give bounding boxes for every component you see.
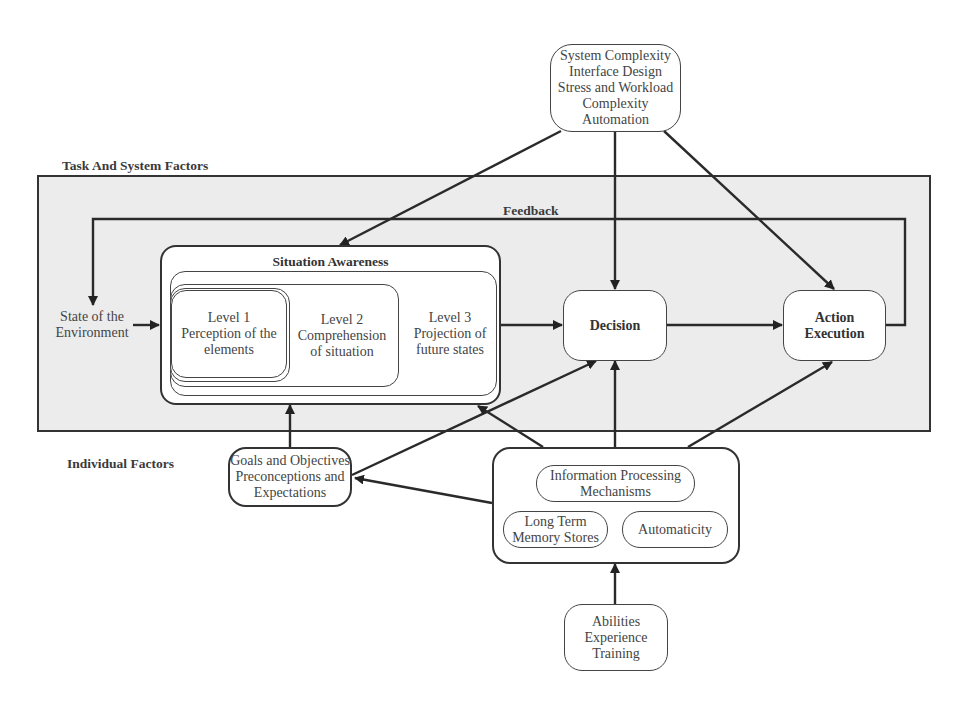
action-execution-node: Action Execution — [783, 290, 886, 361]
sa-level-2-line-1: Level 2 — [294, 312, 390, 328]
clipped-caption-strip — [0, 702, 965, 709]
goals-line-2: Preconceptions and — [235, 469, 344, 485]
sa-level-3-text: Level 3 Projection of future states — [412, 310, 488, 358]
automaticity-label: Automaticity — [638, 522, 712, 538]
state-of-environment-node: State of the Environment — [50, 309, 134, 341]
decision-label: Decision — [590, 318, 641, 334]
sa-level-1-line-1: Level 1 — [208, 310, 250, 326]
long-term-memory-node: Long Term Memory Stores — [503, 511, 608, 548]
abilities-line-3: Training — [592, 646, 640, 662]
state-line-1: State of the — [50, 309, 134, 325]
task-factors-line-1: System Complexity — [560, 48, 671, 64]
abilities-node: Abilities Experience Training — [564, 604, 668, 671]
abilities-line-2: Experience — [585, 630, 648, 646]
task-factors-line-4: Complexity — [582, 96, 648, 112]
goals-line-3: Expectations — [254, 485, 326, 501]
task-factors-line-3: Stress and Workload — [558, 80, 673, 96]
feedback-label: Feedback — [503, 203, 559, 219]
edge-task-to-sa — [340, 131, 561, 245]
sa-level-3-line-3: future states — [412, 342, 488, 358]
info-processing-node: Information Processing Mechanisms — [536, 465, 695, 502]
sa-level-1: Level 1 Perception of the elements — [171, 290, 287, 378]
task-factors-line-5: Automation — [582, 112, 649, 128]
goals-node: Goals and Objectives Preconceptions and … — [228, 447, 352, 507]
edge-individual-to-goals — [355, 478, 492, 503]
info-processing-line-1: Information Processing — [550, 468, 681, 484]
edge-task-to-action — [664, 131, 834, 289]
info-processing-line-2: Mechanisms — [580, 484, 651, 500]
decision-node: Decision — [563, 290, 667, 361]
sa-level-2-line-3: of situation — [294, 344, 390, 360]
sa-level-2-text: Level 2 Comprehension of situation — [294, 312, 390, 360]
edge-individual-to-action — [688, 362, 832, 447]
task-factors-line-2: Interface Design — [569, 64, 662, 80]
edge-individual-to-sa — [478, 406, 543, 447]
action-line-2: Execution — [805, 326, 865, 342]
sa-level-2-line-2: Comprehension — [294, 328, 390, 344]
sa-level-1-line-2: Perception of the — [181, 326, 277, 342]
action-line-1: Action — [815, 310, 855, 326]
abilities-line-1: Abilities — [592, 614, 640, 630]
sa-level-1-line-3: elements — [204, 342, 254, 358]
ltm-line-2: Memory Stores — [512, 530, 599, 546]
state-line-2: Environment — [50, 325, 134, 341]
goals-line-1: Goals and Objectives — [230, 453, 350, 469]
automaticity-node: Automaticity — [622, 511, 728, 548]
sa-level-3-line-2: Projection of — [412, 326, 488, 342]
sa-level-3-line-1: Level 3 — [412, 310, 488, 326]
individual-factors-label: Individual Factors — [67, 456, 174, 472]
situation-awareness-title: Situation Awareness — [272, 254, 388, 270]
task-factors-node: System Complexity Interface Design Stres… — [550, 44, 681, 132]
ltm-line-1: Long Term — [524, 514, 586, 530]
